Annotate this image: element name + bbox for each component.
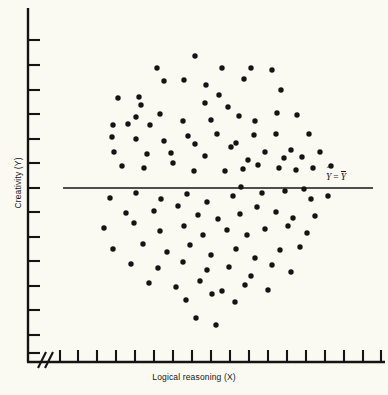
scatter-point bbox=[202, 100, 207, 105]
scatter-point bbox=[259, 190, 264, 195]
scatter-point bbox=[131, 220, 136, 225]
scatter-point bbox=[219, 65, 224, 70]
scatter-point bbox=[157, 111, 162, 116]
scatter-point bbox=[111, 149, 116, 154]
x-axis-title: Logical reasoning (X) bbox=[0, 372, 388, 382]
scatter-point bbox=[240, 166, 245, 171]
scatter-point bbox=[140, 241, 145, 246]
scatter-point bbox=[180, 118, 185, 123]
equals-symbol: = bbox=[331, 172, 340, 182]
scatter-point bbox=[144, 151, 149, 156]
scatter-point bbox=[242, 282, 247, 287]
scatter-point bbox=[248, 65, 253, 70]
scatter-point bbox=[133, 136, 138, 141]
scatter-point bbox=[138, 102, 143, 107]
scatter-point bbox=[232, 299, 237, 304]
scatter-point bbox=[288, 147, 293, 152]
scatter-point bbox=[191, 168, 196, 173]
x-axis-ticks bbox=[60, 350, 381, 362]
scatter-point bbox=[203, 82, 208, 87]
scatter-point bbox=[183, 297, 188, 302]
scatter-point bbox=[209, 291, 214, 296]
scatter-point bbox=[213, 322, 218, 327]
scatter-point bbox=[317, 149, 322, 154]
scatter-point bbox=[123, 210, 128, 215]
scatter-point bbox=[245, 157, 250, 162]
regression-line-label: Y=Y bbox=[326, 172, 346, 182]
axis-group bbox=[27, 8, 385, 362]
scatter-point bbox=[141, 165, 146, 170]
y-axis-ticks bbox=[28, 40, 40, 353]
scatter-point bbox=[225, 104, 230, 109]
scatter-point bbox=[325, 193, 330, 198]
scatter-point bbox=[185, 133, 190, 138]
scatter-point bbox=[128, 261, 133, 266]
scatter-point bbox=[175, 203, 180, 208]
scatter-point bbox=[241, 76, 246, 81]
scatter-point bbox=[244, 232, 249, 237]
y-axis-title: Creativity (Y) bbox=[13, 113, 23, 253]
scatter-point bbox=[216, 92, 221, 97]
scatter-point bbox=[204, 199, 209, 204]
scatter-point bbox=[262, 149, 267, 154]
scatter-point bbox=[119, 163, 124, 168]
scatter-point bbox=[230, 193, 235, 198]
scatter-point bbox=[265, 287, 270, 292]
scatter-point bbox=[147, 122, 152, 127]
scatter-point bbox=[181, 223, 186, 228]
scatter-point bbox=[233, 246, 238, 251]
scatter-point bbox=[237, 211, 242, 216]
scatter-point bbox=[299, 154, 304, 159]
scatter-point bbox=[236, 113, 241, 118]
scatter-point bbox=[224, 227, 229, 232]
scatter-point bbox=[238, 184, 243, 189]
scatter-point bbox=[161, 138, 166, 143]
scatter-point bbox=[110, 122, 115, 127]
scatter-point bbox=[276, 165, 281, 170]
scatter-point bbox=[155, 265, 160, 270]
scatter-point bbox=[273, 131, 278, 136]
scatter-point bbox=[157, 228, 162, 233]
scatter-point bbox=[133, 190, 138, 195]
scatter-point bbox=[273, 209, 278, 214]
scatter-point bbox=[304, 230, 309, 235]
scatter-point bbox=[233, 140, 238, 145]
scatter-point bbox=[180, 259, 185, 264]
scatter-point bbox=[278, 87, 283, 92]
scatter-point bbox=[274, 110, 279, 115]
scatter-point bbox=[208, 117, 213, 122]
scatter-point bbox=[312, 213, 317, 218]
scatter-point bbox=[301, 186, 306, 191]
scatter-point bbox=[281, 155, 286, 160]
scatter-point bbox=[269, 67, 274, 72]
scatter-point bbox=[297, 244, 302, 249]
scatter-point bbox=[193, 315, 198, 320]
scatter-point bbox=[161, 78, 166, 83]
scatter-point bbox=[107, 195, 112, 200]
scatter-points bbox=[101, 53, 333, 327]
scatter-point bbox=[214, 131, 219, 136]
scatter-point bbox=[151, 208, 156, 213]
scatter-point bbox=[170, 160, 175, 165]
scatter-point bbox=[115, 95, 120, 100]
scatter-point bbox=[125, 121, 130, 126]
scatter-point bbox=[228, 144, 233, 149]
scatter-point bbox=[197, 278, 202, 283]
scatter-point bbox=[192, 53, 197, 58]
y-hat-symbol: Y bbox=[326, 172, 331, 182]
scatter-point bbox=[226, 264, 231, 269]
scatter-point bbox=[252, 255, 257, 260]
scatter-point bbox=[202, 153, 207, 158]
scatter-point bbox=[219, 288, 224, 293]
scatter-point bbox=[222, 168, 227, 173]
scatter-point bbox=[195, 212, 200, 217]
scatter-point bbox=[101, 225, 106, 230]
scatter-point bbox=[262, 226, 267, 231]
scatter-point bbox=[200, 232, 205, 237]
scatter-point bbox=[204, 267, 209, 272]
scatter-point bbox=[255, 162, 260, 167]
scatter-point bbox=[248, 273, 253, 278]
scatter-point bbox=[136, 94, 141, 99]
scatter-point bbox=[269, 262, 274, 267]
scatter-point bbox=[308, 196, 313, 201]
